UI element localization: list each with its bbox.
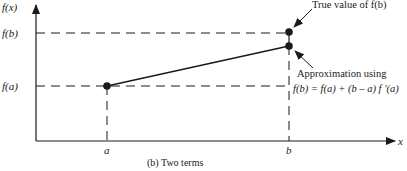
point-true-fb	[285, 28, 293, 36]
y-tick-fa: f(a)	[2, 80, 18, 93]
approximation-line	[107, 46, 289, 86]
true-value-arrow	[294, 9, 312, 27]
x-tick-a: a	[104, 144, 110, 156]
point-approx-fb	[285, 42, 293, 50]
approx-arrow	[295, 51, 313, 68]
point-fa	[103, 82, 111, 90]
caption: (b) Two terms	[147, 157, 203, 169]
true-value-annotation: True value of f(b)	[312, 0, 387, 11]
x-tick-b: b	[286, 144, 292, 156]
y-tick-fb: f(b)	[2, 27, 18, 40]
x-axis-label: x	[397, 135, 403, 147]
approx-annotation-line1: Approximation using	[297, 68, 387, 79]
approx-annotation-line2: f(b) = f(a) + (b – a) f ′(a)	[293, 83, 399, 95]
y-axis-label: f(x)	[2, 1, 18, 14]
taylor-two-terms-diagram: f(x) x f(b) f(a) a b True value of f(b) …	[0, 0, 407, 171]
